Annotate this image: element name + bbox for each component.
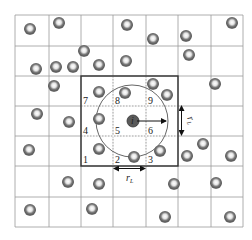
particle xyxy=(86,203,98,215)
particle xyxy=(53,17,65,29)
particle xyxy=(62,176,74,188)
particle xyxy=(159,211,171,223)
particle xyxy=(183,49,195,61)
neighbor-grid-diagram: 789456123 rL rL i xyxy=(0,0,252,240)
particle xyxy=(93,178,105,190)
particle xyxy=(30,63,42,75)
cell-label-7: 7 xyxy=(83,95,88,106)
particle xyxy=(197,138,209,150)
particle xyxy=(93,143,105,155)
particle xyxy=(93,113,105,125)
cell-label-1: 1 xyxy=(83,154,88,165)
particle xyxy=(50,61,62,73)
cell-label-9: 9 xyxy=(148,95,153,106)
particle xyxy=(147,33,159,45)
cell-label-8: 8 xyxy=(115,95,120,106)
particle xyxy=(24,23,36,35)
particle xyxy=(67,61,79,73)
particle xyxy=(78,45,90,57)
cell-label-2: 2 xyxy=(115,154,120,165)
vertical-rl-label: rL xyxy=(184,114,198,126)
particle xyxy=(23,144,35,156)
cell-label-4: 4 xyxy=(83,125,88,136)
particle xyxy=(31,108,43,120)
cell-label-3: 3 xyxy=(148,154,153,165)
particle xyxy=(93,86,105,98)
cell-label-5: 5 xyxy=(115,125,120,136)
particle xyxy=(48,80,60,92)
particle xyxy=(147,78,159,90)
particle xyxy=(120,55,132,67)
particle xyxy=(161,89,173,101)
particle xyxy=(93,59,105,71)
particle xyxy=(168,178,180,190)
particle xyxy=(209,78,221,90)
center-particle-label: i xyxy=(131,115,134,126)
particle xyxy=(63,116,75,128)
particle xyxy=(210,177,222,189)
particle xyxy=(154,145,166,157)
particle xyxy=(24,204,36,216)
particle xyxy=(181,150,193,162)
vertical-cell-size-arrow: rL xyxy=(182,106,199,135)
particle xyxy=(121,19,133,31)
cell-label-6: 6 xyxy=(148,125,153,136)
horizontal-cell-size-arrow: rL xyxy=(114,169,145,185)
particle xyxy=(226,17,238,29)
particle xyxy=(180,30,192,42)
particle xyxy=(225,150,237,162)
particle xyxy=(128,151,140,163)
particle xyxy=(119,87,131,99)
particle xyxy=(224,211,236,223)
horizontal-rl-label: rL xyxy=(126,172,134,184)
